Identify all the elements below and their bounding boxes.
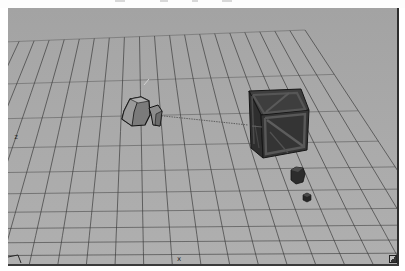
z-axis-label: z [14,134,18,141]
x-axis-label: x [177,256,181,263]
viewport-border [8,264,399,266]
scene-canvas[interactable] [8,8,398,264]
corner-axis-gizmo-icon [8,254,22,264]
viewport-resize-handle[interactable] [389,255,397,263]
cutoff-text [115,0,125,2]
crate-object[interactable] [249,89,309,158]
top-strip [0,0,405,8]
perspective-viewport[interactable]: z x [8,8,398,264]
cutoff-text [192,0,198,2]
tiny-cube-object[interactable] [303,193,311,202]
cutoff-text [222,0,232,2]
cutoff-text [160,0,168,2]
viewport-border [397,8,399,265]
small-cube-object[interactable] [291,167,305,184]
